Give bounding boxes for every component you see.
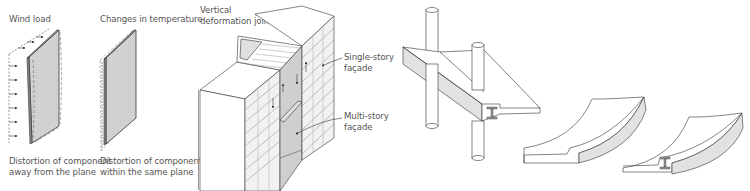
diagram-canvas — [0, 0, 750, 191]
temperature-diagram — [100, 30, 136, 151]
slab-beam-diagram — [403, 8, 540, 161]
curved-slab-1 — [524, 97, 646, 163]
wind-load-diagram — [9, 29, 62, 144]
curved-slab-2 — [623, 113, 743, 174]
facade-joint-diagram — [200, 6, 342, 191]
